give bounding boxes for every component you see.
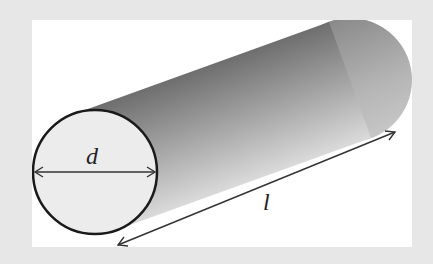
diameter-label: d bbox=[86, 143, 99, 169]
length-label: l bbox=[263, 189, 270, 215]
cylinder-diagram: d l bbox=[0, 0, 433, 264]
figure-frame: d l bbox=[0, 0, 433, 264]
